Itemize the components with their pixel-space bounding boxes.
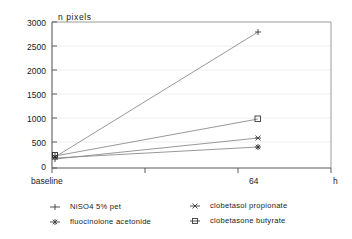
plus-marker-icon bbox=[50, 204, 60, 210]
series-line-clobetasone-butyrate bbox=[55, 119, 258, 156]
plot-frame bbox=[52, 22, 331, 168]
series-lines bbox=[55, 32, 258, 159]
legend-label-clobetasol-propionate: clobetasol propionate bbox=[210, 201, 287, 210]
legend-label-niso4: NiSO4 5% pet bbox=[70, 202, 121, 211]
legend-label-clobetasone-butyrate: clobetasone butyrate bbox=[210, 216, 286, 225]
star-marker-icon bbox=[50, 219, 60, 225]
marker-fluocinolone-acetonide-64h bbox=[255, 144, 261, 150]
plot-gridlines bbox=[53, 46, 330, 142]
marker-niso4-64h bbox=[255, 29, 261, 35]
legend-markers bbox=[0, 198, 352, 238]
marker-cluster-baseline bbox=[52, 153, 58, 163]
y-tick-marks bbox=[52, 22, 57, 168]
legend-label-fluocinolone-acetonide: fluocinolone acetonide bbox=[70, 217, 151, 226]
cross-marker-icon bbox=[190, 204, 200, 209]
x-tick-marks bbox=[52, 168, 331, 173]
line-chart: n pixels 3000 2500 2000 1500 1000 500 0 … bbox=[0, 0, 352, 239]
square-marker-icon bbox=[190, 219, 200, 224]
marker-clobetasol-propionate-64h bbox=[255, 136, 261, 141]
